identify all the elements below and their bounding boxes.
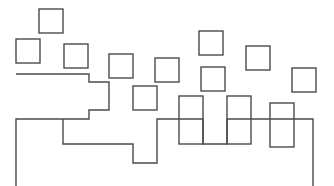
- diagram-canvas: [0, 0, 334, 186]
- square-outline-figure: [0, 0, 334, 186]
- figure-background: [0, 0, 334, 186]
